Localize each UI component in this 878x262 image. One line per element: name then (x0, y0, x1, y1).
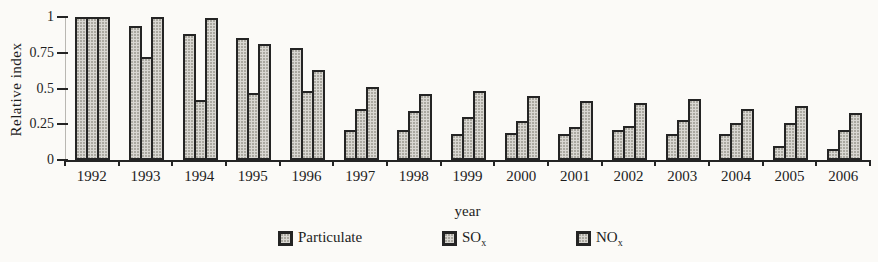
bar-nox-2000 (527, 96, 540, 160)
y-tick-label-0.5: 0.5 (14, 80, 54, 98)
bar-groups (66, 17, 871, 160)
legend-item-sox: SOx (442, 229, 486, 248)
x-axis-tick-3 (225, 160, 227, 166)
bar-nox-1994 (205, 18, 218, 160)
y-tick-label-1: 1 (14, 8, 54, 26)
bar-group-1993 (120, 17, 174, 160)
bar-group-2000 (495, 17, 549, 160)
bar-nox-2004 (741, 109, 754, 160)
bar-nox-2002 (634, 103, 647, 160)
x-axis-tick-15 (869, 160, 871, 166)
legend-item-particulate: Particulate (278, 229, 362, 248)
bar-group-1995 (227, 17, 281, 160)
bar-nox-2003 (688, 99, 701, 160)
x-tick-label-2000: 2000 (494, 168, 548, 185)
x-tick-label-1999: 1999 (441, 168, 495, 185)
x-axis-tick-11 (654, 160, 656, 166)
legend-label-sox-text: SO (462, 229, 481, 245)
bar-nox-1992 (97, 17, 110, 160)
x-tick-label-1996: 1996 (280, 168, 334, 185)
legend-swatch-sox-icon (442, 231, 457, 246)
x-tick-label-2002: 2002 (602, 168, 656, 185)
bar-group-1997 (334, 17, 388, 160)
x-axis-tick-5 (332, 160, 334, 166)
bar-group-2004 (710, 17, 764, 160)
bar-group-2006 (817, 17, 871, 160)
bar-nox-1995 (258, 44, 271, 160)
y-tick-label-0.25: 0.25 (14, 115, 54, 133)
x-tick-label-2004: 2004 (709, 168, 763, 185)
x-axis-tick-7 (440, 160, 442, 166)
legend-swatch-particulate-icon (278, 231, 293, 246)
x-tick-label-1997: 1997 (333, 168, 387, 185)
y-tick-label-0.75: 0.75 (14, 44, 54, 62)
x-axis-tick-4 (279, 160, 281, 166)
x-axis-tick-9 (547, 160, 549, 166)
bar-nox-1999 (473, 91, 486, 160)
legend-label-particulate: Particulate (298, 229, 362, 248)
y-tick-1 (57, 16, 68, 18)
bar-group-1998 (388, 17, 442, 160)
legend-label-sox: SOx (462, 229, 486, 248)
x-tick-label-2003: 2003 (655, 168, 709, 185)
x-axis-tick-13 (762, 160, 764, 166)
x-axis-tick-2 (171, 160, 173, 166)
legend-swatch-nox-icon (576, 231, 591, 246)
x-tick-label-1995: 1995 (226, 168, 280, 185)
x-axis-title: year (65, 203, 870, 220)
y-tick-0 (57, 159, 68, 161)
x-axis-labels: 1992199319941995199619971998199920002001… (65, 168, 870, 185)
bar-group-2005 (764, 17, 818, 160)
plot-area (65, 17, 871, 162)
y-tick-label-0: 0 (14, 151, 54, 169)
bar-group-1994 (173, 17, 227, 160)
x-axis-tick-12 (708, 160, 710, 166)
legend-label-nox-sub: x (618, 237, 623, 248)
bar-nox-2005 (795, 106, 808, 160)
x-tick-label-2001: 2001 (548, 168, 602, 185)
x-tick-label-1998: 1998 (387, 168, 441, 185)
x-tick-label-2006: 2006 (816, 168, 870, 185)
legend-label-particulate-text: Particulate (298, 229, 362, 245)
x-tick-label-2005: 2005 (763, 168, 817, 185)
y-tick-0.5 (57, 88, 68, 90)
x-axis-tick-14 (815, 160, 817, 166)
x-tick-label-1992: 1992 (65, 168, 119, 185)
bar-nox-1993 (151, 17, 164, 160)
chart-legend: Particulate SOx NOx (0, 229, 878, 253)
chart-canvas: Relative index 1992199319941995199619971… (0, 0, 878, 262)
bar-group-2001 (549, 17, 603, 160)
x-axis-tick-10 (601, 160, 603, 166)
bar-group-2003 (656, 17, 710, 160)
x-axis-tick-8 (493, 160, 495, 166)
y-tick-0.25 (57, 123, 68, 125)
legend-item-nox: NOx (576, 229, 623, 248)
bar-group-1992 (66, 17, 120, 160)
x-axis-tick-0 (64, 160, 66, 166)
x-axis-tick-6 (386, 160, 388, 166)
bar-nox-1997 (366, 87, 379, 160)
x-tick-label-1994: 1994 (172, 168, 226, 185)
legend-label-sox-sub: x (481, 237, 486, 248)
bar-group-2002 (603, 17, 657, 160)
legend-label-nox-text: NO (596, 229, 618, 245)
bar-nox-2001 (580, 101, 593, 160)
legend-label-nox: NOx (596, 229, 623, 248)
bar-nox-1996 (312, 70, 325, 160)
bar-group-1996 (281, 17, 335, 160)
x-tick-label-1993: 1993 (119, 168, 173, 185)
bar-nox-1998 (419, 94, 432, 160)
bar-nox-2006 (849, 113, 862, 160)
y-tick-0.75 (57, 52, 68, 54)
bar-group-1999 (442, 17, 496, 160)
x-axis-tick-1 (118, 160, 120, 166)
